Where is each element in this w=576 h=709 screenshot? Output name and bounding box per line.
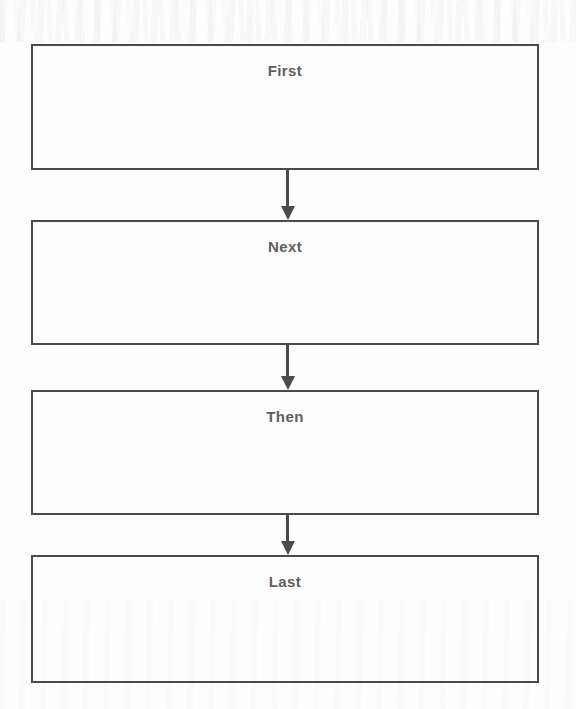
flowchart-node-first[interactable]: First bbox=[31, 44, 539, 170]
arrow-shaft bbox=[286, 515, 289, 543]
flowchart-node-label: Last bbox=[33, 573, 537, 591]
flowchart-node-label: Next bbox=[33, 238, 537, 256]
flowchart-arrow-then-to-last bbox=[281, 515, 295, 555]
flowchart-arrow-first-to-next bbox=[281, 170, 295, 220]
flowchart-node-then[interactable]: Then bbox=[31, 390, 539, 515]
arrow-head-icon bbox=[281, 206, 295, 220]
flowchart-node-label: Then bbox=[33, 408, 537, 426]
flowchart-node-label: First bbox=[33, 62, 537, 80]
arrow-head-icon bbox=[281, 376, 295, 390]
flowchart-diagram: First Next Then Last bbox=[0, 0, 576, 709]
flowchart-node-last[interactable]: Last bbox=[31, 555, 539, 683]
arrow-head-icon bbox=[281, 541, 295, 555]
arrow-shaft bbox=[286, 345, 289, 378]
arrow-shaft bbox=[286, 170, 289, 208]
flowchart-node-next[interactable]: Next bbox=[31, 220, 539, 345]
flowchart-arrow-next-to-then bbox=[281, 345, 295, 390]
